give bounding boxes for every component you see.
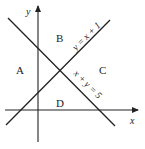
coordinate-diagram: y x A B C D y = x + 1 x + y = 5	[0, 0, 145, 149]
y-axis-label: y	[25, 6, 31, 17]
region-label-b: B	[56, 32, 63, 44]
region-label-d: D	[56, 97, 64, 109]
line-label-y-equals-x-plus-1: y = x + 1	[70, 20, 103, 53]
region-label-a: A	[16, 64, 24, 76]
region-label-c: C	[99, 64, 106, 76]
x-axis-label: x	[129, 115, 135, 126]
